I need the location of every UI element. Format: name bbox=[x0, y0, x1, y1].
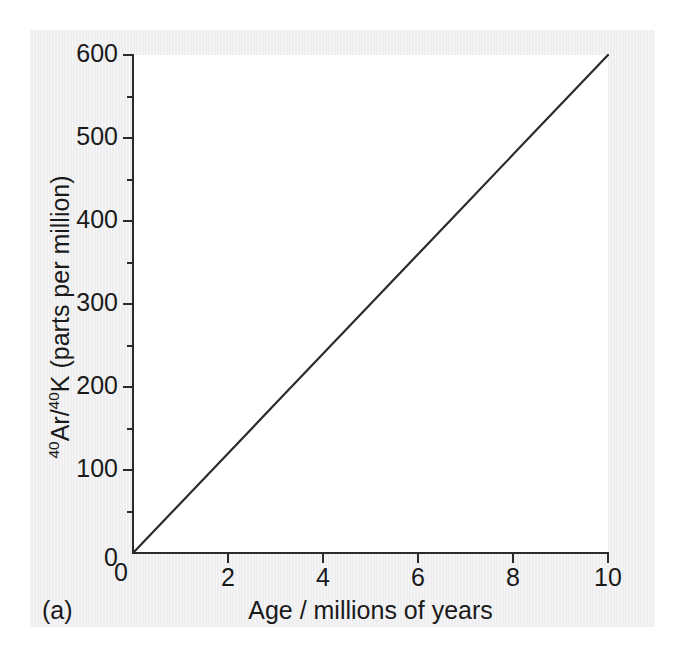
y-axis-tick-major bbox=[123, 54, 132, 56]
x-axis-tick-label: 2 bbox=[198, 563, 258, 592]
x-axis-tick-major bbox=[227, 554, 229, 563]
y-axis-tick-minor bbox=[127, 511, 132, 513]
x-axis-tick-label: 10 bbox=[578, 563, 638, 592]
y-axis-tick-minor bbox=[127, 262, 132, 264]
figure-page: 01002003004005006000246810 Age / million… bbox=[0, 0, 690, 659]
y-axis-tick-major bbox=[123, 137, 132, 139]
y-axis-tick-label: 500 bbox=[48, 122, 118, 151]
data-series-line bbox=[133, 55, 608, 553]
y-axis-tick-minor bbox=[127, 345, 132, 347]
x-axis-tick-major bbox=[322, 554, 324, 563]
y-axis-tick-major bbox=[123, 220, 132, 222]
y-axis-tick-minor bbox=[127, 179, 132, 181]
y-axis-tick-major bbox=[123, 386, 132, 388]
x-axis-tick-major bbox=[607, 554, 609, 563]
y-axis-tick-label: 200 bbox=[48, 371, 118, 400]
y-axis-tick-major bbox=[123, 303, 132, 305]
y-axis-tick-label: 400 bbox=[48, 205, 118, 234]
y-axis-tick-major bbox=[123, 469, 132, 471]
y-axis-tick-minor bbox=[127, 96, 132, 98]
y-axis-tick-label: 300 bbox=[48, 288, 118, 317]
x-axis-title: Age / millions of years bbox=[133, 596, 608, 625]
panel-label: (a) bbox=[42, 596, 73, 625]
x-axis-tick-label: 6 bbox=[388, 563, 448, 592]
x-axis-tick-label: 4 bbox=[293, 563, 353, 592]
y-axis-tick-label: 100 bbox=[48, 454, 118, 483]
x-axis-tick-major bbox=[417, 554, 419, 563]
x-axis-tick-label: 8 bbox=[483, 563, 543, 592]
x-axis-tick-major bbox=[512, 554, 514, 563]
y-axis-tick-minor bbox=[127, 428, 132, 430]
data-line-chart bbox=[133, 55, 608, 553]
y-axis-tick-label: 600 bbox=[48, 39, 118, 68]
x-axis-tick-label: 0 bbox=[91, 558, 151, 587]
